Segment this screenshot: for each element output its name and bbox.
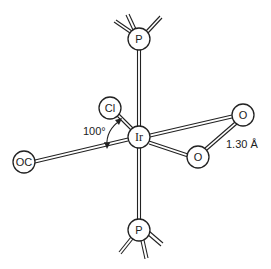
atom-label: Cl (105, 102, 115, 114)
bond-length-label: 1.30 Å (226, 138, 258, 150)
atom-label: Ir (135, 130, 143, 144)
molecule-diagram: P Cl Ir OC O O P 100° 1.30 Å (0, 0, 271, 269)
atom-label: P (135, 33, 142, 45)
atom-o-lower: O (187, 146, 209, 168)
atom-cl: Cl (99, 97, 121, 119)
bond-ir-o-upper (150, 115, 232, 134)
angle-label: 100° (83, 125, 106, 137)
bond-ir-co (35, 138, 128, 160)
atom-p-bottom: P (128, 219, 150, 241)
atom-p-top: P (128, 28, 150, 50)
atom-label: OC (16, 156, 33, 168)
atom-label: O (239, 109, 248, 121)
atom-oc: OC (13, 151, 35, 173)
bond-p-top-sub-3 (146, 16, 160, 31)
atom-label: P (135, 224, 142, 236)
atom-label: O (194, 151, 203, 163)
atom-o-upper: O (232, 104, 254, 126)
atom-ir: Ir (128, 126, 150, 148)
bond-ir-o-lower (149, 141, 188, 154)
